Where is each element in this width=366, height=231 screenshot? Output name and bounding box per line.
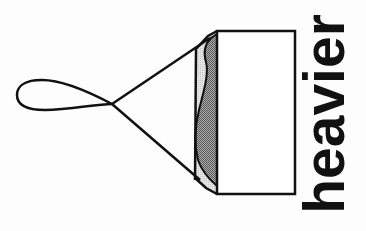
container-base — [195, 50, 196, 180]
container-box — [217, 31, 295, 194]
suspension-string-bottom — [112, 104, 200, 180]
string-loop — [17, 80, 112, 110]
heavier-label: heavier — [296, 14, 353, 214]
